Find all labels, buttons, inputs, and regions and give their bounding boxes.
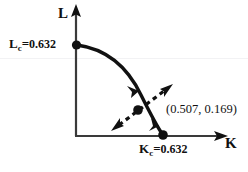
figure-canvas: L K Lc=0.632 Kc=0.632 (0.507, 0.169) bbox=[0, 0, 248, 172]
k-intercept-value: 0.632 bbox=[161, 142, 188, 156]
l-intercept-annotation: Lc=0.632 bbox=[9, 37, 56, 53]
dashed-arrowhead-upper-right-icon bbox=[160, 84, 173, 97]
l-intercept-equals: = bbox=[22, 36, 29, 51]
k-intercept-equals: = bbox=[153, 141, 160, 156]
curve-point-dot bbox=[133, 105, 143, 115]
k-axis-label: K bbox=[225, 136, 237, 151]
plot-graphics bbox=[0, 0, 248, 172]
k-intercept-dot bbox=[158, 130, 168, 140]
point-coordinate-label: (0.507, 0.169) bbox=[166, 103, 237, 116]
l-intercept-dot bbox=[72, 40, 81, 49]
k-intercept-symbol: K bbox=[139, 141, 149, 156]
l-intercept-value: 0.632 bbox=[29, 37, 56, 51]
k-intercept-annotation: Kc=0.632 bbox=[139, 142, 188, 158]
l-axis-label: L bbox=[58, 6, 68, 21]
l-intercept-symbol: L bbox=[9, 36, 18, 51]
